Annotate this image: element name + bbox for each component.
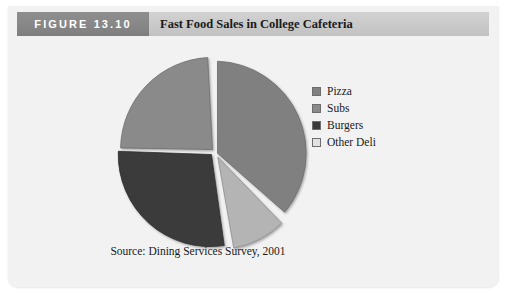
legend-item-pizza[interactable]: Pizza	[312, 84, 432, 99]
legend-swatch-burgers	[312, 121, 321, 130]
figure-card: FIGURE 13.10 Fast Food Sales in College …	[8, 6, 499, 287]
source-note: Source: Dining Services Survey, 2001	[8, 245, 388, 257]
pie-slice-burgers	[118, 151, 224, 246]
legend-swatch-subs	[312, 104, 321, 113]
legend-item-other-deli[interactable]: Other Deli	[312, 135, 432, 150]
legend-swatch-pizza	[312, 87, 321, 96]
figure-number-tag: FIGURE 13.10	[17, 12, 149, 36]
legend-item-subs[interactable]: Subs	[312, 101, 432, 116]
legend-label-pizza: Pizza	[327, 86, 352, 98]
pie-slice-subs	[121, 58, 213, 150]
legend-label-subs: Subs	[327, 103, 349, 115]
figure-title: Fast Food Sales in College Cafeteria	[160, 12, 353, 36]
legend-label-other-deli: Other Deli	[327, 137, 376, 149]
chart-legend: Pizza Subs Burgers Other Deli	[312, 84, 432, 152]
legend-item-burgers[interactable]: Burgers	[312, 118, 432, 133]
pie-chart	[113, 52, 313, 252]
legend-swatch-other-deli	[312, 138, 321, 147]
plot-area: Pizza Subs Burgers Other Deli Source: Di…	[8, 40, 499, 287]
legend-label-burgers: Burgers	[327, 120, 363, 132]
